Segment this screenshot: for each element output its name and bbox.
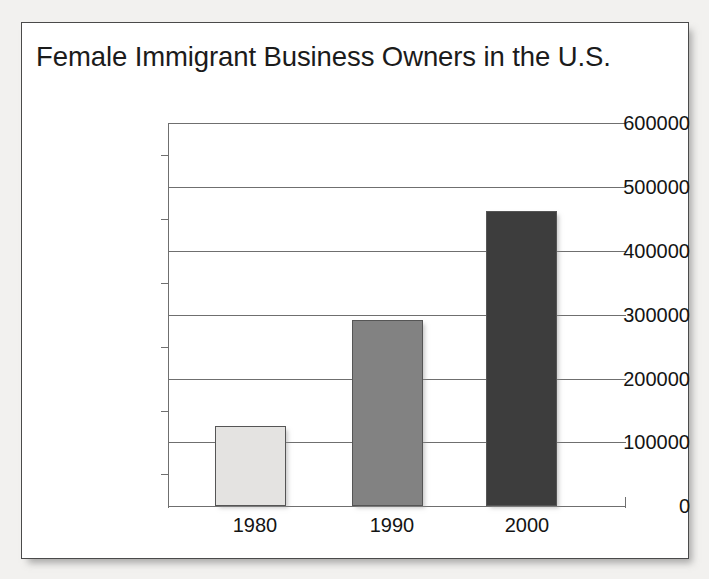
x-axis-tick-label-1980: 1980 [200, 515, 310, 535]
bar-1990[interactable] [352, 320, 423, 506]
gridline-500000 [168, 187, 626, 188]
y-axis-tick-label: 600000 [562, 113, 690, 133]
y-axis-line [168, 123, 169, 508]
y-axis-tick-label: 300000 [562, 305, 690, 325]
x-axis-tick-label-2000: 2000 [472, 515, 582, 535]
gridline-400000 [168, 251, 626, 252]
gridline-0-baseline [168, 506, 626, 507]
chart-page-frame: Female Immigrant Business Owners in the … [21, 22, 689, 559]
bar-2000[interactable] [486, 211, 557, 506]
y-minor-tick [161, 411, 169, 412]
bar-1980[interactable] [215, 426, 286, 506]
y-minor-tick [161, 219, 169, 220]
y-axis-tick-label: 500000 [562, 177, 690, 197]
y-axis-tick-label: 200000 [562, 369, 690, 389]
y-minor-tick [161, 155, 169, 156]
x-axis-tick-label-1990: 1990 [337, 515, 447, 535]
y-minor-tick [161, 347, 169, 348]
y-axis-tick-label: 0 [562, 496, 690, 516]
y-minor-tick [161, 474, 169, 475]
gridline-300000 [168, 315, 626, 316]
y-axis-tick-label: 400000 [562, 241, 690, 261]
y-minor-tick [161, 283, 169, 284]
plot-area: 600000 500000 400000 300000 200000 10000… [22, 23, 690, 560]
gridline-600000 [168, 123, 626, 124]
y-axis-tick-label: 100000 [562, 432, 690, 452]
